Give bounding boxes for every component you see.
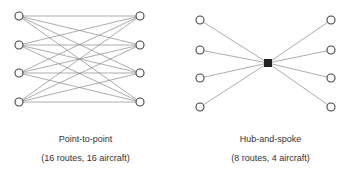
point-to-point-title: Point-to-point	[0, 134, 171, 144]
point-to-point-network	[19, 16, 140, 102]
hub-node	[264, 59, 272, 67]
hub-and-spoke-title: Hub-and-spoke	[185, 134, 342, 144]
network-diagrams	[0, 0, 342, 174]
hub-and-spoke-caption: (8 routes, 4 aircraft)	[185, 153, 342, 163]
point-to-point-caption: (16 routes, 16 aircraft)	[0, 153, 171, 163]
